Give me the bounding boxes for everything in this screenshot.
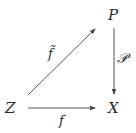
label-f-tilde: f̃ <box>48 47 53 60</box>
node-p: P <box>108 8 118 23</box>
arrow-z-to-p <box>28 29 95 95</box>
label-projection: 𝒫 <box>117 51 127 65</box>
node-x: X <box>108 101 119 116</box>
label-f: f <box>59 114 64 127</box>
node-z: Z <box>5 101 15 116</box>
commutative-diagram: P Z X f̃ 𝒫 f <box>0 0 136 133</box>
